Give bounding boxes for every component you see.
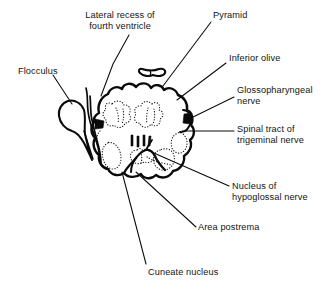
- cuneate-nucleus-dotted: [102, 142, 121, 169]
- label-nucleus-hypoglossal: Nucleus of hypoglossal nerve: [232, 181, 334, 203]
- label-spinal-tract-trigeminal: Spinal tract of trigeminal nerve: [237, 124, 333, 146]
- anatomical-figure: Lateral recess of fourth ventricle Pyram…: [0, 0, 336, 291]
- label-flocculus: Flocculus: [18, 66, 80, 77]
- leader-cuneate: [122, 172, 146, 264]
- label-area-postrema: Area postrema: [198, 222, 286, 233]
- label-inferior-olive: Inferior olive: [229, 53, 309, 64]
- internal-nuclei: [97, 101, 187, 170]
- leader-hypoglossal: [147, 150, 229, 186]
- label-lateral-recess: Lateral recess of fourth ventricle: [68, 10, 172, 32]
- label-glossopharyngeal-nerve: Glossopharyngeal nerve: [237, 85, 335, 107]
- leader-area-postrema: [136, 172, 196, 227]
- leader-inferior-olive: [177, 63, 226, 100]
- leader-flocculus: [53, 75, 72, 104]
- left-lateral-dotted: [97, 131, 100, 143]
- spinal-trigeminal-dotted: [171, 133, 187, 154]
- pyramid-structure: [139, 69, 165, 76]
- inferior-olive-left-dotted: [103, 101, 130, 127]
- left-notch-marker: [95, 119, 104, 129]
- label-pyramid: Pyramid: [213, 10, 273, 21]
- leader-glossopharyngeal: [191, 97, 234, 118]
- inferior-olive-right-dotted: [135, 102, 163, 128]
- label-cuneate-nucleus: Cuneate nucleus: [148, 267, 246, 278]
